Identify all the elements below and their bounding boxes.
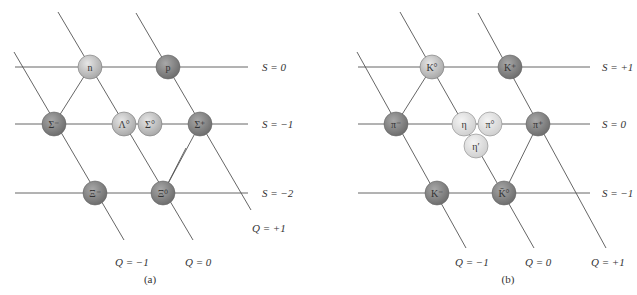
- label-s-2: S = −2: [262, 187, 294, 199]
- label-s0: S = 0: [262, 61, 286, 73]
- label-q-plus1-b: Q = +1: [591, 256, 625, 268]
- particle-p: p: [156, 55, 180, 79]
- svg-text:π⁺: π⁺: [533, 119, 543, 130]
- svg-text:Σ°: Σ°: [145, 119, 155, 130]
- particle-pi-0: π°: [478, 112, 502, 136]
- svg-text:K⁻: K⁻: [431, 188, 443, 199]
- panel-a: n p Σ⁻ Λ° Σ° Σ⁺ Ξ⁻ Ξ⁰ S: [14, 12, 294, 286]
- svg-text:η′: η′: [472, 141, 479, 152]
- svg-text:p: p: [166, 62, 171, 73]
- particle-pi-minus: π⁻: [384, 112, 408, 136]
- line-q-minus1: [357, 52, 466, 248]
- particle-sigma-minus: Σ⁻: [42, 112, 66, 136]
- svg-text:Σ⁻: Σ⁻: [49, 119, 60, 130]
- particle-sigma-0: Σ°: [138, 112, 162, 136]
- particle-pi-plus: π⁺: [526, 112, 550, 136]
- line-q-minus1: [14, 52, 124, 240]
- label-s-plus1: S = +1: [602, 61, 633, 73]
- svg-text:Σ⁺: Σ⁺: [195, 119, 206, 130]
- particle-n: n: [78, 55, 102, 79]
- particle-lambda-0: Λ°: [112, 112, 136, 136]
- svg-text:η: η: [461, 119, 466, 130]
- svg-text:Ξ⁰: Ξ⁰: [158, 188, 168, 199]
- label-q-minus1-b: Q = −1: [455, 256, 489, 268]
- svg-text:K⁺: K⁺: [504, 62, 516, 73]
- particle-k-minus: K⁻: [425, 181, 449, 205]
- caption-a: (a): [144, 273, 157, 286]
- particle-xi-minus: Ξ⁻: [83, 181, 107, 205]
- particle-k-plus: K⁺: [498, 55, 522, 79]
- label-s-1: S = −1: [262, 118, 293, 130]
- label-q-0: Q = 0: [185, 256, 212, 268]
- svg-text:Λ°: Λ°: [118, 119, 129, 130]
- caption-b: (b): [502, 273, 515, 286]
- label-q-minus1: Q = −1: [115, 256, 149, 268]
- particle-eta: η: [452, 112, 476, 136]
- svg-text:π°: π°: [485, 119, 494, 130]
- svg-text:π⁻: π⁻: [391, 119, 401, 130]
- particle-eta-prime: η′: [464, 134, 488, 158]
- label-s-minus1-b: S = −1: [602, 187, 633, 199]
- particle-sigma-plus: Σ⁺: [188, 112, 212, 136]
- particle-k0-bar: K̄°: [492, 181, 516, 205]
- label-s0-b: S = 0: [602, 118, 626, 130]
- eightfold-way-diagram: n p Σ⁻ Λ° Σ° Σ⁺ Ξ⁻ Ξ⁰ S: [0, 0, 637, 295]
- particle-xi-0: Ξ⁰: [151, 181, 175, 205]
- line-q-plus1: [136, 13, 251, 210]
- svg-text:K̄°: K̄°: [498, 188, 509, 199]
- panel-b: K° K⁺ π⁻ η π° η′ π⁺ K⁻: [357, 12, 633, 286]
- label-q-0-b: Q = 0: [525, 256, 552, 268]
- svg-text:n: n: [88, 62, 93, 73]
- particle-k0: K°: [420, 55, 444, 79]
- svg-text:K°: K°: [426, 62, 437, 73]
- svg-text:Ξ⁻: Ξ⁻: [89, 188, 100, 199]
- label-q-plus1: Q = +1: [252, 222, 286, 234]
